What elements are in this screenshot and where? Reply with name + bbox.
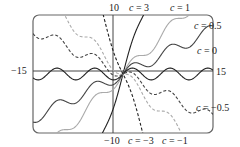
series-label-c1: c = 1 <box>170 3 190 13</box>
x-min-label: −15 <box>11 66 27 76</box>
series-label-c3: c = 3 <box>129 3 149 13</box>
x-max-label: 15 <box>216 67 226 77</box>
series-label-cm1: c = −1 <box>162 136 188 146</box>
series-label-cm05: c = −0.5 <box>196 103 229 113</box>
y-max-label: 10 <box>109 3 119 13</box>
y-min-label: −10 <box>104 136 120 146</box>
curve-neg3 <box>33 0 213 147</box>
curve-group <box>33 0 213 147</box>
series-label-c0: c = 0 <box>197 46 217 56</box>
series-label-c05: c = 0.5 <box>194 21 222 31</box>
series-label-cm3: c = −3 <box>128 136 154 146</box>
